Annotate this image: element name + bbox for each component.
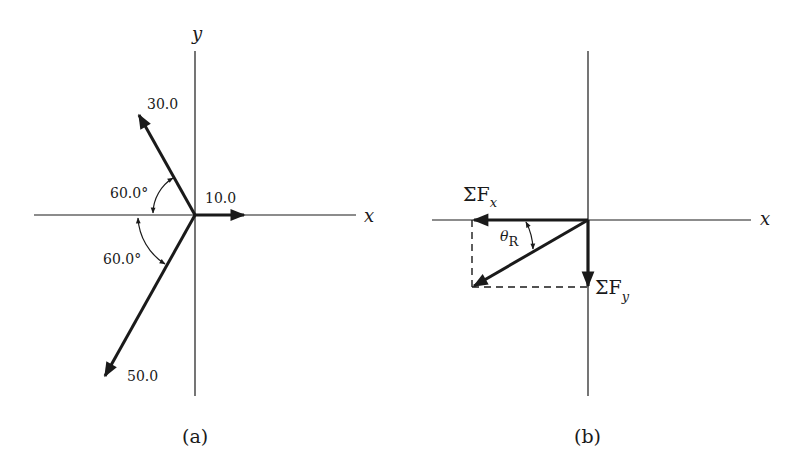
- x-axis-label-a: x: [364, 205, 374, 226]
- vector-diagram: x y 30.0 10.0 50.0 60.0° 60.0° (a) x ΣFx: [0, 0, 800, 476]
- angle-arc-lower: [138, 218, 165, 264]
- resultant-vector: [474, 220, 588, 286]
- vector-30-label: 30.0: [147, 96, 178, 112]
- panel-b: x ΣFx ΣFy θR (b): [432, 51, 770, 447]
- angle-arc-upper: [153, 178, 173, 213]
- vector-50-label: 50.0: [127, 368, 158, 384]
- sum-fx-label: ΣFx: [463, 183, 498, 210]
- x-axis-label-b: x: [760, 208, 770, 229]
- theta-label: θR: [500, 228, 519, 249]
- theta-arc: [526, 222, 533, 249]
- panel-a: x y 30.0 10.0 50.0 60.0° 60.0° (a): [34, 23, 374, 447]
- caption-a: (a): [182, 425, 208, 447]
- sum-fy-label: ΣFy: [595, 276, 630, 304]
- vector-50: [105, 215, 195, 376]
- angle-label-upper: 60.0°: [110, 185, 148, 201]
- caption-b: (b): [574, 425, 601, 447]
- y-axis-label-a: y: [191, 23, 203, 44]
- vector-10-label: 10.0: [205, 190, 236, 206]
- angle-label-lower: 60.0°: [103, 251, 141, 267]
